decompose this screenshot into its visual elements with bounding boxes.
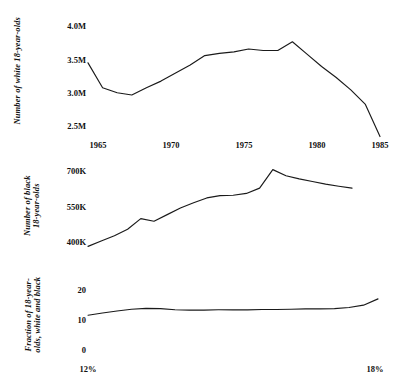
panel-white-ytick-3: 3.5M [38,55,86,65]
panel-white-axis-title: Number of white 18-year-olds [13,6,23,136]
multi-panel-line-chart-figure: Number of white 18-year-olds 4.0M 3.5M 3… [0,0,410,392]
panel-white-xtick-1985: 1985 [360,140,400,150]
panel-fraction-xtick-18pct: 18% [355,364,395,374]
panel-black-18-year-olds: Number of black 18-year-olds 700K 550K 4… [0,155,410,265]
panel-black-ytick-550k: 550K [38,202,86,212]
panel-fraction-ytick-10: 10 [44,315,86,325]
panel-white-ytick-4: 4.0M [38,21,86,31]
panel-fraction-axis-title-line2: olds, white and black [33,262,43,367]
panel-white-xtick-1980: 1980 [297,140,337,150]
panel-black-ytick-400k: 400K [38,237,86,247]
panel-white-ytick-1: 2.5M [38,121,86,131]
panel-fraction-ytick-0: 0 [44,345,86,355]
panel-white-18-year-olds: Number of white 18-year-olds 4.0M 3.5M 3… [0,0,410,155]
panel-white-xtick-1970: 1970 [151,140,191,150]
panel-fraction-xtick-12pct: 12% [68,364,108,374]
panel-black-line-series [88,163,352,253]
panel-white-xtick-1965: 1965 [78,140,118,150]
panel-fraction-ytick-20: 20 [44,285,86,295]
panel-white-line-series [88,14,380,138]
panel-white-xtick-1975: 1975 [224,140,264,150]
panel-black-ytick-700k: 700K [38,166,86,176]
panel-fraction-white-and-black: Fraction of 18-year- olds, white and bla… [0,265,410,392]
panel-fraction-line-series [88,281,378,353]
panel-white-ytick-2: 3.0M [38,88,86,98]
